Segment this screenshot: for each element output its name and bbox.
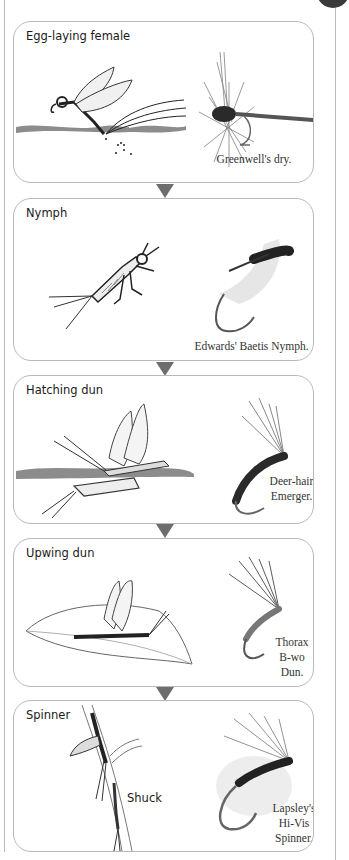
fly-caption: Thorax B-wo Dun. (272, 635, 312, 680)
stage-hatching-dun: Hatching dun Deer-hair Emerger. (13, 375, 314, 524)
page-right-rule (335, 0, 336, 860)
fly-caption: Deer-hair Emerger. (269, 474, 314, 504)
thorax-bwo-dun-fly-image (14, 539, 314, 687)
flow-arrow-2 (156, 362, 174, 376)
fly-caption: Greenwell's dry. (204, 152, 304, 167)
edwards-baetis-nymph-fly-image (14, 199, 314, 359)
fly-caption-line: Lapsley's (272, 801, 314, 816)
stage-upwing-dun: Upwing dun Thorax B-wo Dun. (13, 538, 314, 687)
fly-caption: Edwards' Baetis Nymph. (189, 339, 314, 354)
fly-caption-line: Spinner. (272, 831, 314, 846)
stage-egg-laying-female: Egg-laying female Greenwell's dry. (13, 21, 314, 183)
flow-arrow-4 (156, 687, 174, 701)
fly-caption-line: Emerger. (269, 489, 314, 504)
flow-arrow-1 (156, 184, 174, 198)
fly-caption: Lapsley's Hi-Vis Spinner. (272, 801, 314, 846)
page-left-rule (4, 0, 5, 852)
fly-caption-line: Dun. (272, 665, 312, 680)
fly-caption-line: Deer-hair (269, 474, 314, 489)
fly-caption-line: Hi-Vis (272, 816, 314, 831)
fly-caption-line: Thorax (272, 635, 312, 650)
stage-spinner: Spinner Shuck Lapsley's Hi-Vis Spinner. (13, 700, 314, 852)
stage-nymph: Nymph Edwards' Baetis Nymph. (13, 198, 314, 361)
fly-caption-line: B-wo (272, 650, 312, 665)
flow-arrow-3 (156, 524, 174, 538)
page-tab-marker (317, 0, 349, 8)
lapsleys-hi-vis-spinner-fly-image (14, 701, 314, 851)
